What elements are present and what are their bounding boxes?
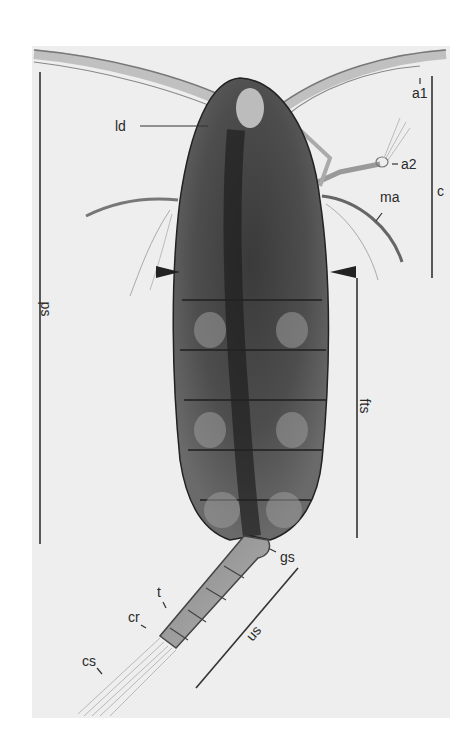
label-ma: ma (380, 190, 399, 204)
label-gs: gs (280, 550, 295, 564)
label-a1: a1 (412, 86, 428, 100)
prosome-body (173, 78, 328, 540)
label-t: t (157, 585, 161, 599)
label-ld: ld (115, 119, 126, 133)
copepod-figure: a1 ld a2 ma c ps fts gs t cr cs us (0, 0, 475, 754)
label-fts: fts (358, 399, 372, 414)
label-c: c (437, 184, 444, 198)
label-a2: a2 (401, 157, 417, 171)
label-cs: cs (82, 654, 96, 668)
label-cr: cr (128, 610, 140, 624)
caudal-setae (78, 638, 176, 716)
urosome (78, 536, 270, 716)
copepod-illustration (0, 0, 475, 754)
label-ps: ps (39, 302, 53, 317)
